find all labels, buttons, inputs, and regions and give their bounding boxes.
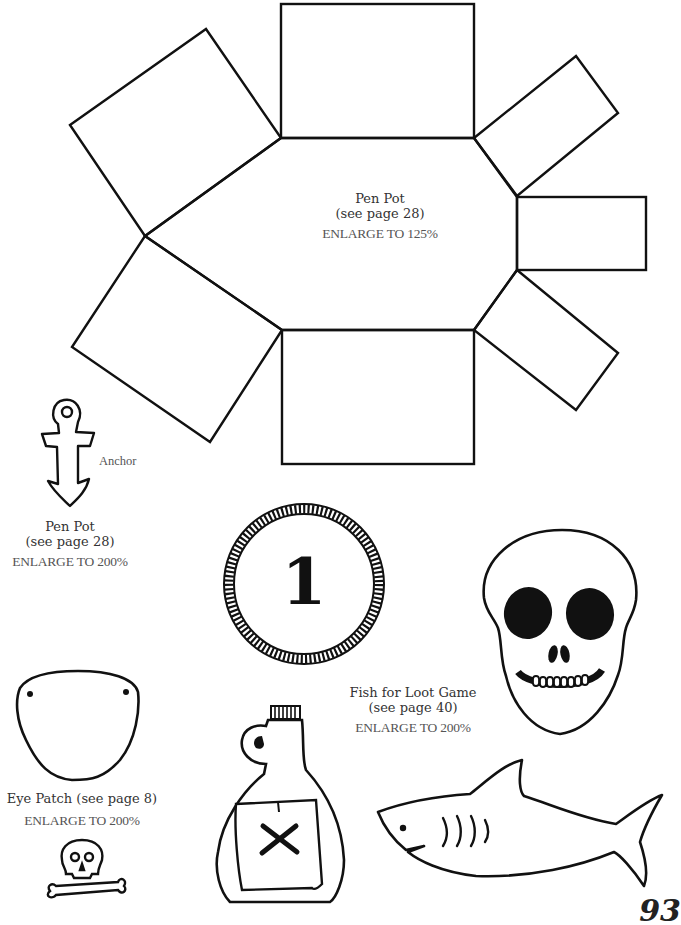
net-panel-top [281,4,474,138]
bottle-icon [217,706,344,902]
pen-pot-large-title: Pen Pot [300,192,460,207]
net-panel-upper-right [474,56,618,196]
pen-pot-large-reference: (see page 28) [300,207,460,222]
shark-icon [378,760,662,886]
fish-for-loot-reference: (see page 40) [338,701,488,716]
skull-icon [484,530,637,734]
pen-pot-small-instruction: ENLARGE TO 200% [0,554,140,570]
pen-pot-small-title: Pen Pot [0,520,140,535]
net-panel-lower-left [72,236,282,442]
net-panel-lower-right [474,270,618,410]
pen-pot-small-label: Pen Pot (see page 28) ENLARGE TO 200% [0,520,140,569]
anchor-icon [42,400,94,506]
pen-pot-large-label: Pen Pot (see page 28) ENLARGE TO 125% [300,192,460,241]
pen-pot-small-reference: (see page 28) [0,535,140,550]
page-number: 93 [639,893,681,925]
fish-for-loot-label: Fish for Loot Game (see page 40) ENLARGE… [338,686,488,735]
net-panel-bottom [282,330,474,464]
eye-patch-label: Eye Patch (see page 8) ENLARGE TO 200% [0,792,164,828]
eye-patch-instruction: ENLARGE TO 200% [0,813,164,829]
pen-pot-large-instruction: ENLARGE TO 125% [300,226,460,242]
eye-patch-title: Eye Patch (see page 8) [0,792,164,807]
anchor-label: Anchor [99,454,137,469]
skull-and-bone-icon [48,840,125,897]
net-panel-upper-left [70,29,281,236]
fish-for-loot-title: Fish for Loot Game [338,686,488,701]
coin-number: 1 [278,550,330,614]
net-panel-right [517,197,646,270]
fish-for-loot-instruction: ENLARGE TO 200% [338,720,488,736]
eye-patch-icon [17,671,138,780]
